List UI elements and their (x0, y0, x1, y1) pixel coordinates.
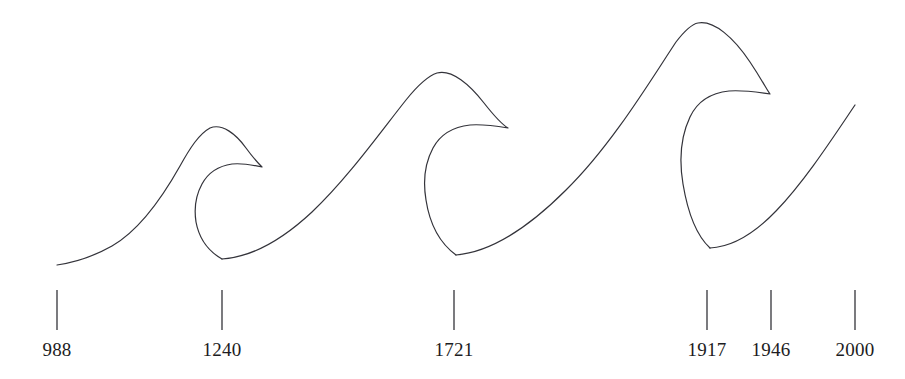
axis-label-1946: 1946 (752, 340, 791, 359)
axis-label-2000: 2000 (836, 340, 875, 359)
axis-label-988: 988 (42, 340, 71, 359)
axis-label-1240: 1240 (203, 340, 242, 359)
wave-2-path (222, 72, 508, 259)
wave-3-path (456, 23, 770, 255)
wave-1-path (57, 127, 262, 265)
wave-curve-graphic (0, 0, 905, 379)
rising-tail-path (710, 105, 855, 248)
wave-timeline-figure: 988 1240 1721 1917 1946 2000 (0, 0, 905, 379)
axis-label-1917: 1917 (688, 340, 727, 359)
axis-label-1721: 1721 (435, 340, 474, 359)
axis-tick-group (57, 290, 855, 330)
